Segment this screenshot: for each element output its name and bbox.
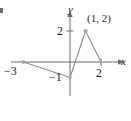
y-axis-label: y [68, 4, 73, 15]
peak-point-annotation: (1, 2) [87, 13, 111, 24]
graph-figure: y x 2 2 −3 −1 (1, 2) [0, 0, 131, 121]
x-tick-label-neg3: −3 [4, 65, 17, 77]
plot-canvas [0, 0, 131, 121]
data-point-marker-x-2 [99, 60, 102, 63]
x-tick-label-2: 2 [96, 67, 102, 79]
data-point-marker-y-neg1 [68, 76, 72, 80]
data-point-marker-x-neg3 [22, 60, 26, 64]
data-point-marker-peak [83, 29, 87, 33]
x-axis-label: x [121, 56, 126, 67]
y-tick-label-2: 2 [57, 25, 63, 37]
y-tick-label-neg1: −1 [49, 71, 62, 83]
